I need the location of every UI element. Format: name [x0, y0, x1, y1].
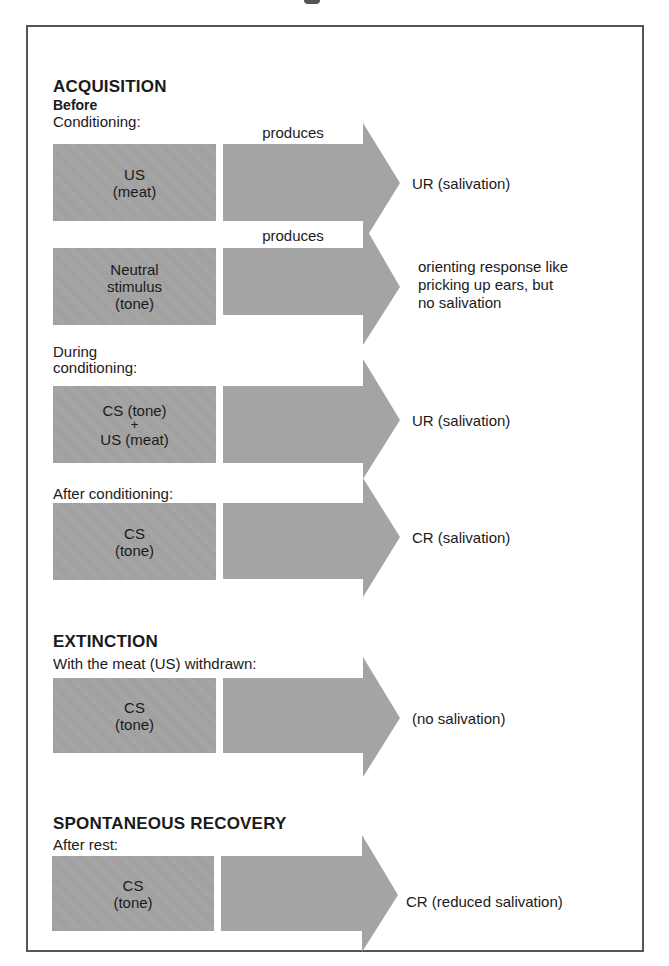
result-line: (no salivation) — [412, 710, 505, 727]
result-ur-salivation: UR (salivation) — [412, 175, 510, 193]
stimulus-line: (meat) — [113, 183, 156, 200]
produces-label-1: produces — [223, 124, 363, 141]
stimulus-line: CS — [123, 877, 144, 894]
produces-label-2: produces — [223, 227, 363, 244]
after-rest-label: After rest: — [53, 836, 118, 853]
stimulus-line: CS (tone) — [102, 402, 166, 419]
result-line: UR (salivation) — [412, 412, 510, 429]
section-title-extinction: EXTINCTION — [53, 632, 158, 652]
stimulus-line: US — [124, 166, 145, 183]
stimulus-line: stimulus — [107, 278, 162, 295]
result-line: pricking up ears, but — [418, 276, 568, 294]
stimulus-box-cs-tone-recovery: CS (tone) — [52, 856, 214, 931]
during-conditioning-label-line2: conditioning: — [53, 359, 137, 376]
arrow-extinction — [223, 657, 403, 779]
result-line: no salivation — [418, 294, 568, 312]
arrow-cs-produces-cr — [223, 478, 403, 600]
result-line: CR (salivation) — [412, 529, 510, 546]
stimulus-box-cs-tone-after: CS (tone) — [53, 503, 216, 580]
result-cr-salivation: CR (salivation) — [412, 529, 510, 547]
stimulus-line: + — [131, 419, 139, 431]
section-title-spontaneous-recovery: SPONTANEOUS RECOVERY — [53, 814, 287, 834]
result-line: CR (reduced salivation) — [406, 893, 563, 910]
arrow-cs-us-produces-ur — [223, 359, 403, 481]
cropped-heading-fragment — [304, 0, 320, 4]
stimulus-box-cs-tone-extinction: CS (tone) — [53, 678, 216, 753]
stimulus-line: (tone) — [115, 716, 154, 733]
before-conditioning-label-line2: Conditioning: — [53, 113, 141, 130]
stimulus-line: (tone) — [113, 894, 152, 911]
section-title-acquisition: ACQUISITION — [53, 77, 167, 97]
stimulus-line: CS — [124, 525, 145, 542]
stimulus-line: (tone) — [115, 542, 154, 559]
after-conditioning-label: After conditioning: — [53, 485, 173, 502]
stimulus-line: US (meat) — [100, 431, 168, 448]
result-ur-salivation-during: UR (salivation) — [412, 412, 510, 430]
stimulus-line: (tone) — [115, 295, 154, 312]
stimulus-box-neutral-tone: Neutral stimulus (tone) — [53, 248, 216, 325]
result-line: UR (salivation) — [412, 175, 510, 192]
stimulus-line: CS — [124, 699, 145, 716]
result-line: orienting response like — [418, 258, 568, 276]
stimulus-box-us-meat: US (meat) — [53, 144, 216, 221]
during-conditioning-label-line1: During — [53, 343, 97, 360]
stimulus-box-cs-plus-us: CS (tone) + US (meat) — [53, 386, 216, 463]
result-no-salivation: (no salivation) — [412, 710, 505, 728]
before-conditioning-label-line1: Before — [53, 97, 97, 114]
result-cr-reduced-salivation: CR (reduced salivation) — [406, 893, 563, 911]
stimulus-line: Neutral — [110, 261, 158, 278]
result-orienting-response: orienting response like pricking up ears… — [418, 258, 568, 312]
arrow-spontaneous-recovery — [221, 835, 401, 957]
